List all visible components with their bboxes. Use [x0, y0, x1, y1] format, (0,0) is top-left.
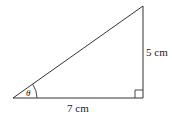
- angle-arc: [33, 84, 37, 98]
- angle-label: θ: [26, 88, 31, 98]
- right-angle-marker: [135, 90, 143, 98]
- vertical-side-label: 5 cm: [146, 46, 168, 58]
- triangle-diagram: θ 5 cm 7 cm: [0, 0, 172, 118]
- horizontal-side-label: 7 cm: [67, 102, 89, 114]
